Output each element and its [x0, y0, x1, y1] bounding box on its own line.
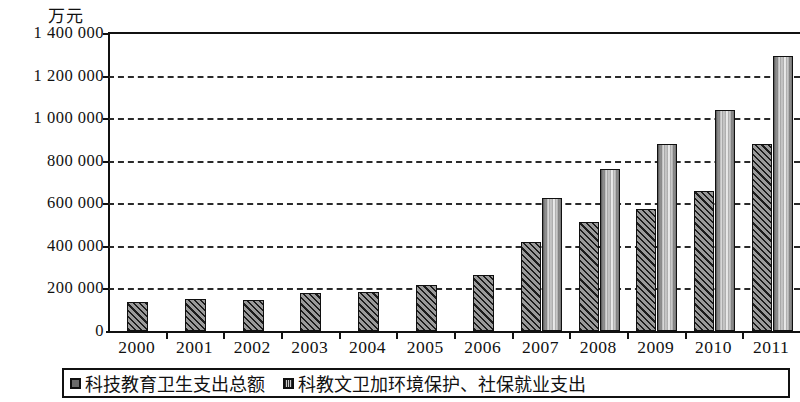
y-axis-tick-label: 1 400 000 [34, 23, 105, 43]
x-axis-label-2001: 2001 [176, 337, 213, 358]
bar-group-2008 [579, 32, 620, 331]
bar-series-2-2008 [600, 169, 620, 331]
x-axis-label-2003: 2003 [291, 337, 328, 358]
bar-group-2003 [300, 32, 321, 331]
bar-series-1-2003 [300, 293, 321, 331]
series-1-swatch-icon [70, 378, 81, 389]
bar-series-2-2011 [773, 56, 793, 331]
series-2-swatch-icon [283, 378, 294, 389]
x-axis-label-2008: 2008 [580, 337, 617, 358]
legend-label-series-1: 科技教育卫生支出总额 [85, 370, 265, 396]
bar-series-1-2006 [473, 275, 494, 331]
legend-item-series-1: 科技教育卫生支出总额 [70, 370, 265, 396]
bar-group-2005 [416, 32, 437, 331]
x-axis-label-2000: 2000 [118, 337, 155, 358]
legend-item-series-2: 科教文卫加环境保护、社保就业支出 [283, 370, 586, 396]
bar-series-2-2010 [715, 110, 735, 331]
x-axis-label-2006: 2006 [464, 337, 501, 358]
plot-area [108, 32, 800, 333]
y-axis-tick-label: 600 000 [47, 193, 104, 213]
bar-group-2000 [127, 32, 148, 331]
y-axis-tick [103, 76, 109, 78]
bar-series-2-2009 [657, 144, 677, 331]
y-axis-tick-label: 1 000 000 [34, 108, 105, 128]
y-axis-tick-label: 800 000 [47, 151, 104, 171]
x-axis-label-2005: 2005 [407, 337, 444, 358]
bar-series-2-2007 [542, 198, 562, 331]
chart-legend: 科技教育卫生支出总额 科教文卫加环境保护、社保就业支出 [62, 368, 790, 398]
bar-group-2010 [694, 32, 735, 331]
y-axis-tick [103, 288, 109, 290]
bar-series-1-2001 [185, 299, 206, 331]
bar-group-2006 [473, 32, 494, 331]
bar-group-2002 [243, 32, 264, 331]
bar-group-2001 [185, 32, 206, 331]
bar-group-2011 [752, 32, 793, 331]
bar-series-1-2007 [521, 242, 541, 331]
y-axis-tick-label: 1 200 000 [34, 66, 105, 86]
x-axis-label-2007: 2007 [522, 337, 559, 358]
bar-series-1-2000 [127, 302, 148, 331]
x-axis-label-2010: 2010 [695, 337, 732, 358]
y-axis-tick [103, 161, 109, 163]
bar-series-1-2008 [579, 222, 599, 331]
legend-label-series-2: 科教文卫加环境保护、社保就业支出 [298, 370, 586, 396]
x-axis-label-2011: 2011 [753, 337, 789, 358]
y-axis-tick-label: 200 000 [47, 278, 104, 298]
y-axis-tick [103, 118, 109, 120]
bar-series-1-2011 [752, 144, 772, 331]
bar-series-1-2004 [358, 292, 379, 331]
bar-series-container [108, 32, 800, 331]
x-axis-label-2004: 2004 [349, 337, 386, 358]
bar-group-2007 [521, 32, 562, 331]
y-axis-tick [103, 203, 109, 205]
y-axis-tick-label: 400 000 [47, 236, 104, 256]
bar-series-1-2005 [416, 285, 437, 331]
y-axis-tick [103, 246, 109, 248]
x-axis-labels: 2000200120022003200420052006200720082009… [0, 337, 800, 363]
bar-series-1-2009 [636, 209, 656, 331]
y-axis-tick [103, 33, 109, 35]
bar-group-2004 [358, 32, 379, 331]
bar-series-1-2002 [243, 300, 264, 332]
x-axis-label-2002: 2002 [234, 337, 271, 358]
chart-figure: 万元 0200 000400 000600 000800 0001 000 00… [0, 0, 800, 402]
bar-group-2009 [636, 32, 677, 331]
bar-series-1-2010 [694, 191, 714, 331]
x-axis-label-2009: 2009 [637, 337, 674, 358]
